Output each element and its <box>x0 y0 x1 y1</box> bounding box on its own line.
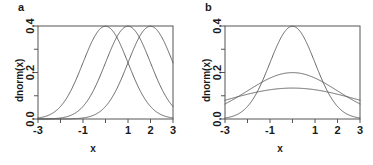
panel-a-plot: -3-11230.00.20.4 <box>0 0 186 165</box>
x-tick-label: 2 <box>147 124 153 136</box>
panel-a: a -3-11230.00.20.4 dnorm(x) x <box>0 0 186 165</box>
panel-a-y-axis-title: dnorm(x) <box>14 59 25 102</box>
plot-frame <box>38 26 173 119</box>
panel-b-x-axis-title: x <box>187 143 373 154</box>
y-tick-label: 0.4 <box>24 17 36 33</box>
y-tick-label: 0.4 <box>211 17 223 33</box>
panel-b: b -3-11230.00.20.4 dnorm(x) x <box>187 0 373 165</box>
y-tick-label: 0.0 <box>24 111 36 126</box>
density-curve <box>38 26 173 119</box>
figure-container: a -3-11230.00.20.4 dnorm(x) x b -3-11230… <box>0 0 373 165</box>
x-tick-label: 3 <box>170 124 176 136</box>
panel-a-x-axis-title: x <box>0 143 186 154</box>
panel-b-y-axis-title: dnorm(x) <box>201 59 212 102</box>
density-curve <box>38 26 173 119</box>
density-curve <box>225 26 360 118</box>
x-tick-label: 1 <box>312 124 318 136</box>
y-tick-label: 0.2 <box>211 65 223 80</box>
x-tick-label: 3 <box>357 124 363 136</box>
y-tick-label: 0.2 <box>24 65 36 80</box>
x-tick-label: 2 <box>334 124 340 136</box>
y-tick-label: 0.0 <box>211 111 223 126</box>
panel-b-plot: -3-11230.00.20.4 <box>187 0 373 165</box>
density-curve <box>38 26 173 118</box>
x-tick-label: -1 <box>265 124 275 136</box>
density-curve <box>225 88 360 100</box>
x-tick-label: -1 <box>78 124 88 136</box>
x-tick-label: 1 <box>125 124 131 136</box>
